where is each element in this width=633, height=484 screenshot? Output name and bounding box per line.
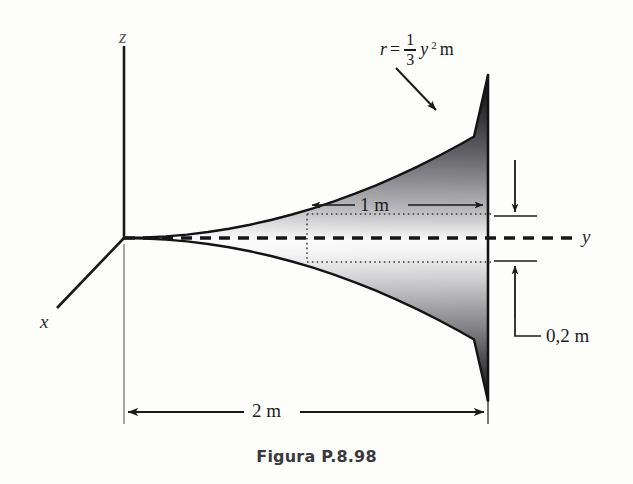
dimension-0-2m [494,160,541,336]
dimension-label-1m: 1 m [360,195,389,214]
x-axis-label: x [40,312,48,331]
equation-fraction: 1 3 [404,32,416,68]
x-axis [57,238,124,308]
equation-leader-arrow [396,68,436,110]
equation-denominator: 3 [404,52,416,68]
figure-root: z x y r = 1 3 y2 m 1 m 0,2 m 2 m Figura … [0,0,633,484]
figure-caption: Figura P.8.98 [0,447,633,466]
dim-02m-leader [515,318,541,336]
y-axis-label: y [582,227,590,246]
equation-lhs: r [380,39,387,60]
equation-equals: = [390,39,400,60]
diagram-canvas [0,0,633,484]
dimension-label-0-2m: 0,2 m [546,326,589,345]
z-axis-label: z [119,27,126,46]
equation-numerator: 1 [404,32,416,48]
equation-unit: m [440,39,454,60]
curve-equation: r = 1 3 y2 m [380,32,454,68]
dimension-label-2m: 2 m [252,401,281,420]
equation-exponent: 2 [431,39,437,51]
equation-variable: y [420,39,428,60]
